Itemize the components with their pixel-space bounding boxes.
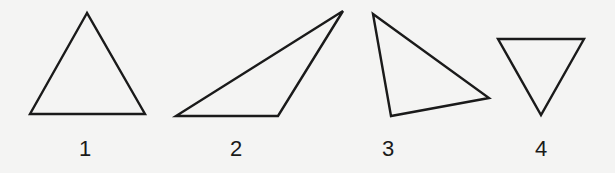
triangle-1 xyxy=(30,13,145,114)
triangle-2-label: 2 xyxy=(230,138,242,160)
triangle-4-label: 4 xyxy=(535,138,547,160)
triangle-4 xyxy=(498,39,584,115)
triangle-1-label: 1 xyxy=(79,138,91,160)
triangle-3-label: 3 xyxy=(382,138,394,160)
triangle-3 xyxy=(373,14,489,116)
triangle-2 xyxy=(176,11,343,116)
triangles-figure xyxy=(0,0,615,173)
